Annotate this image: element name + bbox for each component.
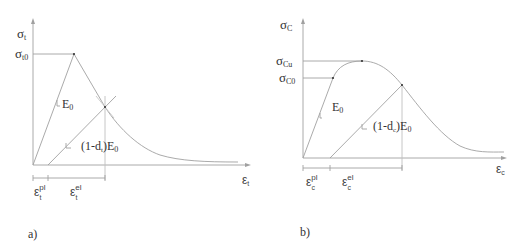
y-axis-label-b: σC xyxy=(280,17,292,33)
plastic-strain-label-b: εplc xyxy=(306,173,318,191)
initial-yield-label-b: σC0 xyxy=(279,70,295,86)
unload-point xyxy=(401,84,403,86)
elastic-strain-label-b: εelc xyxy=(342,173,354,191)
x-axis-label-a: εt xyxy=(242,173,249,187)
damaged-slope-label-a: (1-dt)E0 xyxy=(81,139,118,154)
slope-mark-e0 xyxy=(57,100,60,106)
ultimate-stress-label-b: σCu xyxy=(276,53,292,69)
slope-mark-e0 xyxy=(320,113,322,118)
y-axis-label-a: σt xyxy=(17,26,27,42)
e0-label-a: E0 xyxy=(62,97,73,112)
stress-strain-curve xyxy=(333,61,504,152)
plastic-strain-label-a: εplt xyxy=(34,183,46,201)
peak-stress-label-a: σt0 xyxy=(15,46,28,62)
unload-point xyxy=(104,106,106,108)
damaged-slope-label-b: (1-dc)E0 xyxy=(373,119,411,134)
panel-b-compression xyxy=(301,18,507,171)
initial-yield-point xyxy=(332,77,334,79)
e0-label-b: E0 xyxy=(332,100,343,115)
peak-point xyxy=(73,53,75,55)
y-axis-arrow-icon xyxy=(301,18,305,24)
caption-a: a) xyxy=(28,227,37,241)
caption-b: b) xyxy=(300,225,310,239)
x-axis-label-b: εc xyxy=(496,162,505,176)
x-axis-arrow-icon xyxy=(245,163,251,167)
x-axis-arrow-icon xyxy=(501,156,507,160)
y-axis-arrow-icon xyxy=(31,18,35,24)
elastic-loading-line xyxy=(303,78,333,158)
ultimate-point xyxy=(361,60,363,62)
concrete-damage-diagrams: σt σt0 E0 (1-dt)E0 εt εplt εelt a) σC σC… xyxy=(0,0,526,252)
elastic-strain-label-a: εelt xyxy=(70,183,82,201)
